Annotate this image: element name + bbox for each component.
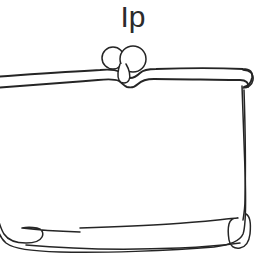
- clasp-pendant: [118, 64, 130, 83]
- drawing-canvas: Ip: [0, 0, 266, 272]
- purse-line-drawing: [0, 0, 266, 272]
